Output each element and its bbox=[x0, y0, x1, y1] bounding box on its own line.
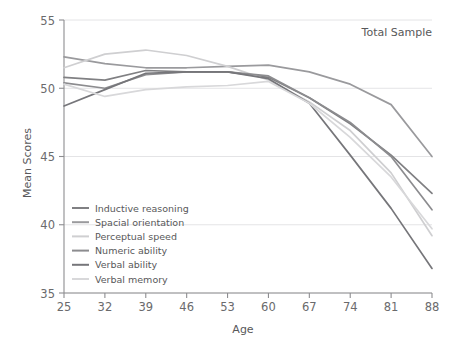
y-tick-label-40: 40 bbox=[40, 218, 55, 232]
legend-label-numeric-ability: Numeric ability bbox=[95, 245, 168, 256]
y-axis-title: Mean Scores bbox=[21, 128, 34, 198]
legend-label-spacial-orientation: Spacial orientation bbox=[95, 217, 184, 228]
y-tick-label-50: 50 bbox=[40, 82, 55, 96]
x-tick-label-53: 53 bbox=[220, 300, 235, 314]
x-tick-label-67: 67 bbox=[302, 300, 317, 314]
x-tick-label-32: 32 bbox=[98, 300, 113, 314]
x-tick-label-46: 46 bbox=[179, 300, 194, 314]
x-tick-label-39: 39 bbox=[138, 300, 153, 314]
y-tick-label-35: 35 bbox=[40, 287, 55, 301]
x-tick-label-25: 25 bbox=[57, 300, 72, 314]
y-tick-label-45: 45 bbox=[40, 150, 55, 164]
x-tick-label-74: 74 bbox=[343, 300, 358, 314]
legend-label-inductive-reasoning: Inductive reasoning bbox=[95, 203, 189, 214]
y-tick-label-55: 55 bbox=[40, 14, 55, 28]
x-axis-title: Age bbox=[232, 323, 254, 336]
x-tick-label-81: 81 bbox=[384, 300, 399, 314]
sample-annotation: Total Sample bbox=[361, 26, 433, 39]
x-tick-label-88: 88 bbox=[425, 300, 440, 314]
chart-canvas: 5550454035 25323946536067748188 Inductiv… bbox=[0, 0, 457, 344]
chart-background bbox=[0, 0, 457, 344]
line-chart-figure: 5550454035 25323946536067748188 Inductiv… bbox=[0, 0, 457, 344]
legend-label-verbal-memory: Verbal memory bbox=[95, 274, 168, 285]
x-tick-label-60: 60 bbox=[261, 300, 276, 314]
legend-label-perceptual-speed: Perceptual speed bbox=[95, 231, 177, 242]
legend-label-verbal-ability: Verbal ability bbox=[95, 259, 158, 270]
